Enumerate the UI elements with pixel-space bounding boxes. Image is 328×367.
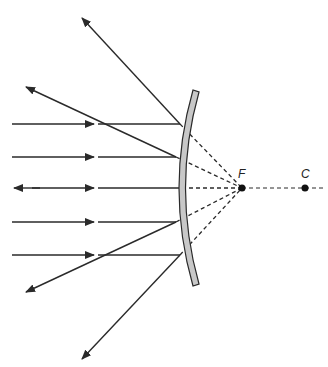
center-of-curvature-label: C: [301, 167, 310, 181]
focal-point-label: F: [238, 167, 246, 181]
center-of-curvature-dot: [302, 185, 309, 192]
convex-mirror-diagram: F C: [0, 0, 328, 367]
focal-point-dot: [239, 185, 246, 192]
incident-rays: [12, 124, 180, 255]
